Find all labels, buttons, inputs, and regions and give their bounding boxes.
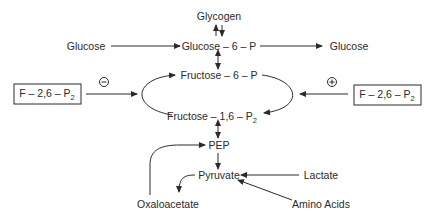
node-glucose-in: Glucose bbox=[67, 40, 106, 52]
node-glycogen: Glycogen bbox=[197, 10, 242, 22]
minus-sign-icon bbox=[100, 78, 109, 87]
node-pyruvate: Pyruvate bbox=[198, 169, 240, 181]
node-glucose-out: Glucose bbox=[330, 40, 369, 52]
plus-sign-icon bbox=[328, 78, 337, 87]
regulator-right: F – 2,6 – P2 bbox=[354, 85, 421, 105]
node-oxaloacetate: Oxaloacetate bbox=[137, 198, 199, 210]
node-fructose-6-p: Fructose – 6 – P bbox=[180, 69, 257, 81]
arrow-f16p2-to-f6p bbox=[142, 75, 175, 115]
node-fructose-1-6-p2: Fructose – 1,6 – P2 bbox=[167, 110, 257, 125]
arrow-pyruvate-to-oxaloacetate bbox=[179, 175, 195, 192]
node-fructose-1-6-p2-main: Fructose – 1,6 – P bbox=[167, 110, 253, 122]
node-fructose-1-6-p2-sub: 2 bbox=[253, 116, 257, 125]
regulator-left: F – 2,6 – P2 bbox=[14, 84, 81, 104]
node-amino-acids: Amino Acids bbox=[292, 198, 350, 210]
arrow-aminoacids-to-pyruvate bbox=[238, 180, 292, 200]
node-pep: PEP bbox=[208, 139, 229, 151]
arrow-oxaloacetate-to-pep bbox=[150, 145, 205, 195]
node-glucose-6-p: Glucose – 6 – P bbox=[182, 40, 257, 52]
node-lactate: Lactate bbox=[304, 169, 339, 181]
arrow-f6p-to-f16p2 bbox=[262, 75, 293, 113]
gluconeogenesis-diagram: Glycogen Glucose Glucose – 6 – P Glucose… bbox=[0, 0, 434, 221]
